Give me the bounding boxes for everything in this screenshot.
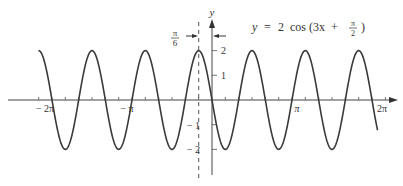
x-tick-label-2pi: 2π xyxy=(377,103,387,114)
x-tick-label-neg-pi: − π xyxy=(120,103,133,114)
equation-eq: = xyxy=(264,20,271,34)
equation-lhs: y xyxy=(251,20,258,34)
y-tick-label-neg-1: − 1 xyxy=(187,120,200,131)
phase-shift-label-num: π xyxy=(173,28,178,38)
x-tick-label-neg-2pi: − 2π xyxy=(36,103,54,114)
y-axis-label: y xyxy=(209,6,215,18)
arrow-left-icon xyxy=(213,34,219,38)
y-tick-label-1: 1 xyxy=(221,70,226,81)
x-tick-labels: − 2π − π π 2π xyxy=(36,103,387,114)
equation-frac-den: 2 xyxy=(351,29,355,38)
cosine-graph: π 6 y y = 2 cos (3x + π 2 ) − 2π − π π 2… xyxy=(0,0,403,186)
y-axis-arrow-icon xyxy=(209,19,215,28)
x-tick-label-pi: π xyxy=(294,103,300,114)
equation-title: y = 2 cos (3x + π 2 ) xyxy=(251,19,365,38)
equation-close-paren: ) xyxy=(361,20,365,34)
equation-rhs: 2 cos (3x + xyxy=(278,20,338,34)
axes xyxy=(8,19,398,175)
arrow-right-icon xyxy=(192,34,198,38)
y-tick-label-neg-2: − 2 xyxy=(187,144,200,155)
phase-shift-label-den: 6 xyxy=(173,38,178,48)
y-tick-label-2: 2 xyxy=(221,45,226,56)
equation-frac-num: π xyxy=(351,19,355,28)
x-axis-arrow-icon xyxy=(389,97,398,103)
